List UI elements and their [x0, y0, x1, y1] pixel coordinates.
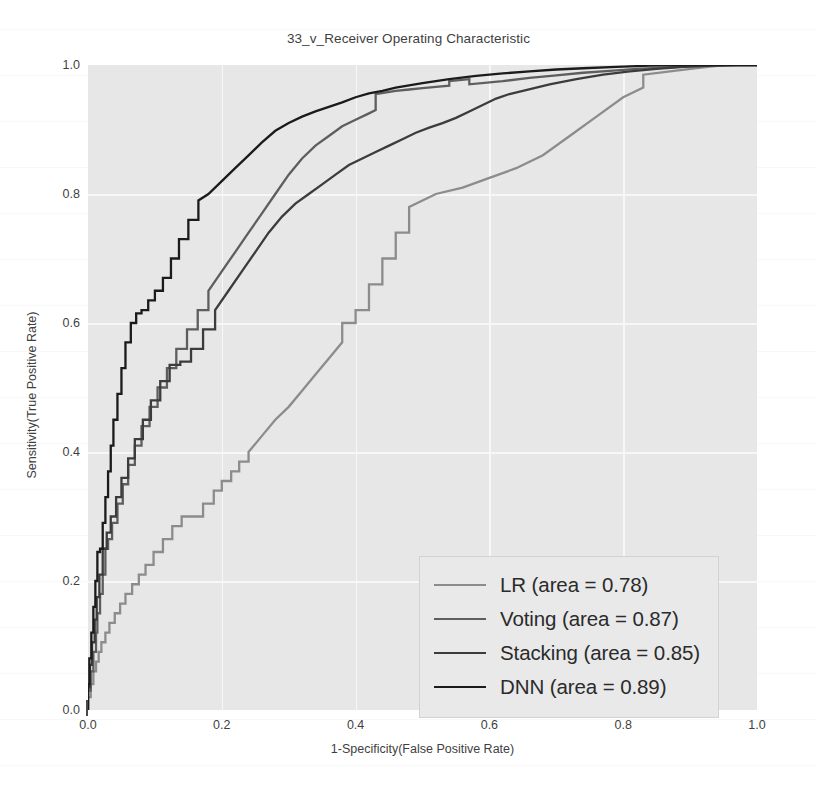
x-tick-label: 0.4 — [326, 718, 386, 732]
x-axis-label: 1-Specificity(False Positive Rate) — [88, 742, 757, 756]
legend-label: Stacking (area = 0.85) — [500, 641, 700, 665]
x-tick-label: 0.0 — [58, 718, 118, 732]
legend-item-dnn[interactable]: DNN (area = 0.89) — [434, 670, 704, 704]
legend-swatch-voting — [434, 618, 486, 620]
legend-item-stacking[interactable]: Stacking (area = 0.85) — [434, 636, 704, 670]
legend-item-voting[interactable]: Voting (area = 0.87) — [434, 602, 704, 636]
y-tick-label: 0.0 — [36, 703, 80, 717]
legend-label: LR (area = 0.78) — [500, 573, 648, 597]
legend-item-lr[interactable]: LR (area = 0.78) — [434, 568, 704, 602]
chart-legend: LR (area = 0.78)Voting (area = 0.87)Stac… — [419, 556, 719, 718]
roc-chart-figure: 33_v_Receiver Operating Characteristic 0… — [0, 0, 817, 788]
legend-label: DNN (area = 0.89) — [500, 675, 666, 699]
x-tick-label: 0.6 — [459, 718, 519, 732]
y-axis-label: Sensitivity(True Positive Rate) — [25, 285, 39, 505]
x-tick-label: 0.8 — [593, 718, 653, 732]
axis-spine — [86, 700, 88, 716]
x-axis-ticks: 0.00.20.40.60.81.0 — [88, 718, 757, 738]
y-tick-label: 0.4 — [36, 445, 80, 459]
legend-label: Voting (area = 0.87) — [500, 607, 679, 631]
chart-title: 33_v_Receiver Operating Characteristic — [0, 31, 817, 46]
y-tick-label: 0.6 — [36, 316, 80, 330]
x-tick-label: 0.2 — [192, 718, 252, 732]
y-tick-label: 1.0 — [36, 58, 80, 72]
legend-swatch-stacking — [434, 652, 486, 654]
y-tick-label: 0.8 — [36, 187, 80, 201]
x-tick-label: 1.0 — [727, 718, 787, 732]
legend-swatch-lr — [434, 584, 486, 586]
y-tick-label: 0.2 — [36, 574, 80, 588]
legend-swatch-dnn — [434, 686, 486, 688]
